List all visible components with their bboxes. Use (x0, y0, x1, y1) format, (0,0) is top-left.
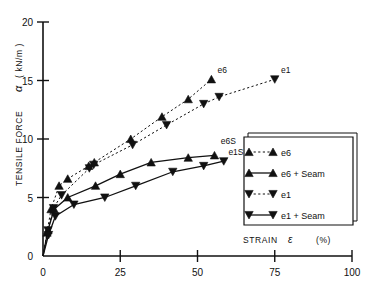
point-label: e1S (228, 147, 243, 157)
series-e6---seam (43, 151, 219, 256)
y-axis-title-text: TENSILE FORCE (14, 111, 24, 186)
data-point-marker (207, 75, 215, 83)
data-point-marker (158, 113, 166, 121)
data-point-marker (64, 194, 72, 202)
point-label: e6S (221, 136, 236, 146)
y-tick-label: 5 (27, 193, 33, 204)
y-axis-symbol: α (12, 85, 24, 92)
legend-label: e6 + Seam (281, 169, 325, 179)
y-axis-title: TENSILE FORCE α ( kN/m ) (12, 43, 24, 186)
data-point-marker (271, 76, 279, 84)
series-line (43, 79, 211, 256)
y-tick-label: 20 (22, 17, 34, 28)
chart-legend[interactable]: e6e6 + Seame1e1 + Seam (244, 133, 357, 225)
data-point-marker (57, 192, 65, 200)
data-point-marker (91, 182, 99, 190)
legend-label: e6 (281, 148, 291, 158)
x-tick-label: 75 (269, 267, 281, 278)
x-axis-title-text: STRAIN (243, 235, 278, 245)
x-axis-tick-labels: 0255075100 (40, 267, 361, 278)
data-point-marker (55, 182, 63, 190)
tensile-force-strain-chart: 05101520 0255075100 TENSILE FORCE α ( kN… (0, 0, 373, 298)
legend-label: e1 + Seam (281, 211, 325, 221)
data-point-marker (70, 201, 78, 209)
data-point-marker (64, 175, 72, 183)
series-e1---seam (43, 158, 228, 256)
point-label: e6 (218, 65, 228, 75)
data-point-marker (215, 93, 223, 101)
legend-label: e1 (281, 190, 291, 200)
x-tick-label: 0 (40, 267, 46, 278)
series-e6 (43, 75, 216, 256)
x-axis-symbol: ε (288, 234, 293, 245)
data-point-marker (162, 121, 170, 129)
x-axis-title: STRAIN ε (%) (243, 234, 331, 245)
x-tick-label: 50 (192, 267, 204, 278)
data-point-marker (199, 100, 207, 108)
y-tick-label: 0 (27, 251, 33, 262)
data-point-marker (132, 182, 140, 190)
x-tick-label: 100 (344, 267, 361, 278)
data-point-marker (128, 141, 136, 149)
chart-figure: 05101520 0255075100 TENSILE FORCE α ( kN… (0, 0, 373, 298)
data-point-marker (116, 170, 124, 178)
series-line (43, 161, 224, 256)
series-line (43, 79, 275, 256)
x-tick-label: 25 (115, 267, 127, 278)
y-axis-unit: ( kN/m ) (14, 43, 24, 78)
point-label: e1 (281, 65, 291, 75)
series-line (43, 155, 214, 256)
x-axis-unit: (%) (316, 235, 331, 245)
data-point-marker (169, 168, 177, 176)
